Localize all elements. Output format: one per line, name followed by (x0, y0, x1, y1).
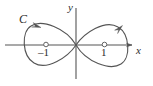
y-axis-label: y (68, 2, 73, 13)
tick-label-minus-one: –1 (38, 47, 49, 58)
x-axis-label: x (136, 45, 141, 56)
tick-label-one: 1 (101, 47, 107, 58)
curve-label-c: C (19, 13, 27, 25)
lemniscate-figure: y x C –1 1 (0, 0, 153, 86)
